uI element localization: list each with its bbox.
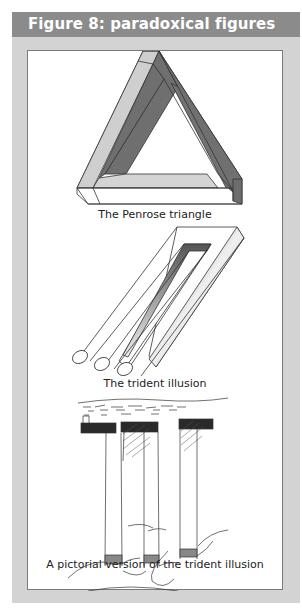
penrose-triangle-caption: The Penrose triangle xyxy=(28,208,282,221)
figure-title: Figure 8: paradoxical figures xyxy=(28,15,275,33)
figure-panel: Figure 8: paradoxical figures xyxy=(12,12,300,603)
figure-header: Figure 8: paradoxical figures xyxy=(12,12,300,37)
figure-content: The Penrose triangle The trident illusio… xyxy=(27,50,283,590)
pictorial-trident-caption: A pictorial version of the trident illus… xyxy=(28,558,282,571)
impossible-trident-icon xyxy=(70,227,244,378)
trident-illusion-caption: The trident illusion xyxy=(28,377,282,390)
penrose-triangle-icon xyxy=(77,51,242,204)
illustrations xyxy=(28,51,284,591)
